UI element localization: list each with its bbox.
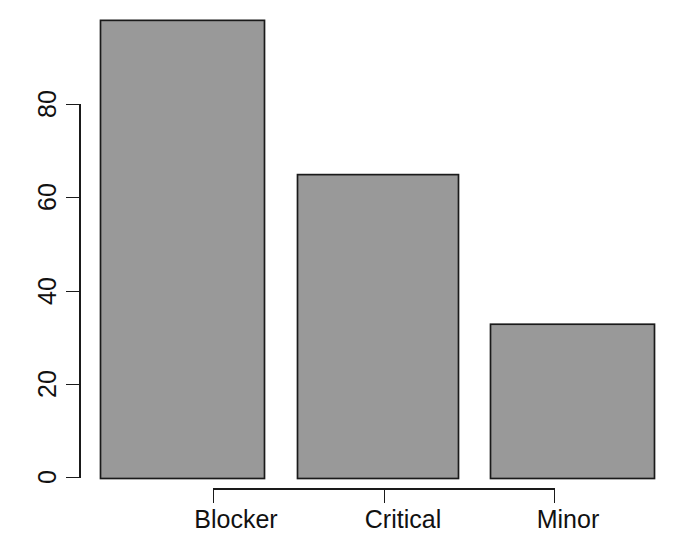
y-tick-label-0: 0 <box>33 470 61 484</box>
bar-critical[interactable] <box>298 175 459 479</box>
x-axis-tick-labels: Blocker Critical Minor <box>194 505 599 533</box>
x-tick-label-blocker: Blocker <box>194 505 277 533</box>
x-tick-label-minor: Minor <box>537 505 600 533</box>
chart-canvas: 80 60 40 20 0 Blocker Critical Minor <box>0 0 673 560</box>
y-tick-label-80: 80 <box>33 90 61 118</box>
bar-blocker[interactable] <box>101 20 265 478</box>
y-tick-label-20: 20 <box>33 370 61 398</box>
y-tick-label-60: 60 <box>33 183 61 211</box>
bar-chart-figure: 80 60 40 20 0 Blocker Critical Minor <box>0 0 673 560</box>
y-tick-label-40: 40 <box>33 277 61 305</box>
bar-minor[interactable] <box>491 324 655 478</box>
x-tick-label-critical: Critical <box>365 505 441 533</box>
